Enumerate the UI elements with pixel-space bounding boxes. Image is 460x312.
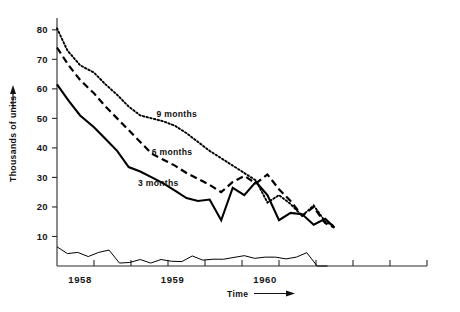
y-tick-label: 50 <box>37 113 48 124</box>
y-tick-label: 80 <box>37 24 48 35</box>
x-tick-label: 1959 <box>161 274 185 285</box>
y-tick-label: 60 <box>37 83 48 94</box>
y-tick-label: 10 <box>37 231 48 242</box>
chart-figure: 1020304050607080 195819591960 9 months6 … <box>0 0 460 312</box>
series-label-3-months: 3 months <box>138 178 179 188</box>
series-line-9-months <box>57 28 335 226</box>
x-tick-label: 1960 <box>253 274 277 285</box>
series-line-baseline-series <box>57 247 328 266</box>
y-tick-label: 20 <box>37 201 48 212</box>
y-axis-title: Thousands of units <box>8 96 18 182</box>
y-axis-tick-labels: 1020304050607080 <box>37 24 48 242</box>
series-label-6-months: 6 months <box>152 147 193 157</box>
x-axis-title-group: Time <box>227 289 295 299</box>
x-axis-arrow-head <box>286 291 295 297</box>
line-chart: 1020304050607080 195819591960 9 months6 … <box>0 0 460 312</box>
y-axis-ticks <box>52 30 57 237</box>
x-axis-tick-labels: 195819591960 <box>68 274 277 285</box>
y-axis-arrow-head <box>10 85 16 94</box>
x-axis-title: Time <box>227 289 249 299</box>
y-tick-label: 70 <box>37 54 48 65</box>
y-axis-title-group: Thousands of units <box>8 85 18 182</box>
y-axis-group: 1020304050607080 <box>37 18 57 266</box>
y-tick-label: 30 <box>37 172 48 183</box>
data-series-group <box>57 28 335 266</box>
series-label-9-months: 9 months <box>156 109 197 119</box>
x-tick-label: 1958 <box>68 274 92 285</box>
y-tick-label: 40 <box>37 142 48 153</box>
x-axis-group: 195819591960 <box>57 260 427 285</box>
